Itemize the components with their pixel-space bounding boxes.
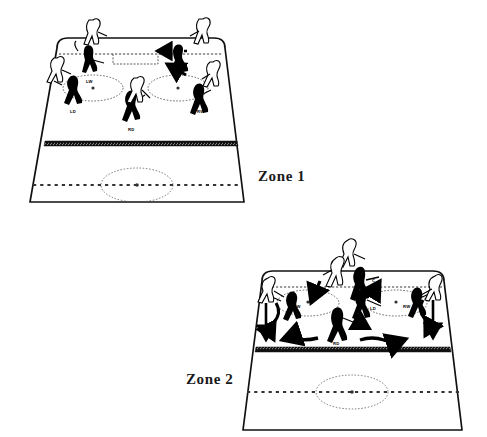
faceoff-dot-left-zone-1 [91,86,94,89]
diagram-canvas: LW LD RD RW [0,0,487,437]
position-label-lw-zone-2: LW [294,304,301,309]
faceoff-dot-right-zone-1 [176,86,179,89]
position-label-rd-zone-1: RD [128,127,134,132]
position-label-ld-zone-2: LD [370,306,376,311]
faceoff-dot-left-zone-2 [306,300,309,303]
position-label-lw-zone-1: LW [86,79,93,84]
zone-2-caption: Zone 2 [186,371,233,388]
position-label-c-zone-2: C [372,278,375,283]
position-label-rd-zone-2: RD [333,341,339,346]
left-sweep-arrow-zone-2 [282,338,318,340]
zone-1-rink: LW LD RD RW [30,18,244,202]
zone-2-rink: LW C LD RD RW [243,239,462,430]
center-dot-zone-2 [350,390,354,394]
position-label-ld-zone-1: LD [70,109,76,114]
zone-1-caption: Zone 1 [258,168,305,185]
position-label-rw-zone-1: RW [197,109,204,114]
center-dot-zone-1 [135,183,139,187]
faceoff-dot-right-zone-2 [394,300,397,303]
blue-line-zone-1 [44,141,238,146]
hockey-zone-coverage-figure: LW LD RD RW [0,0,487,437]
blue-line-zone-2 [255,347,451,352]
position-label-rw-zone-2: RW [403,304,410,309]
